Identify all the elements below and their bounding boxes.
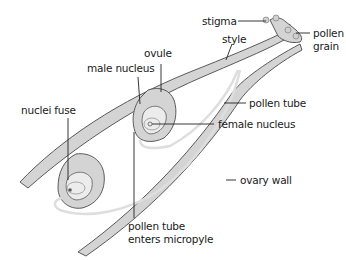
label-male-nucleus: male nucleus: [87, 62, 155, 74]
lower-ovule: [58, 154, 104, 209]
label-pollen-tube: pollen tube: [249, 97, 306, 109]
label-ovule: ovule: [144, 47, 172, 59]
label-nuclei-fuse: nuclei fuse: [21, 104, 76, 116]
label-stigma: stigma: [202, 15, 237, 27]
label-pollen-tube-enters-1: pollen tube: [128, 220, 185, 232]
label-ovary-wall: ovary wall: [240, 174, 292, 186]
label-female-nucleus: female nucleus: [218, 118, 295, 130]
label-pollen-grain-1: pollen: [313, 27, 344, 39]
label-pollen-tube-enters-2: enters micropyle: [128, 233, 213, 245]
fertilisation-diagram: stigma style pollen grain ovule male nuc…: [0, 0, 346, 260]
label-style: style: [222, 33, 246, 45]
label-pollen-grain-2: grain: [313, 40, 339, 52]
